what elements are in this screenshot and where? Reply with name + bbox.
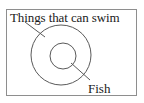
outer-set-circle bbox=[31, 25, 91, 85]
inner-set-circle bbox=[50, 43, 76, 69]
set-diagram-image: Things that can swim Fish bbox=[0, 0, 144, 103]
outer-set-label: Things that can swim bbox=[10, 11, 120, 24]
inner-set-label: Fish bbox=[88, 82, 110, 95]
